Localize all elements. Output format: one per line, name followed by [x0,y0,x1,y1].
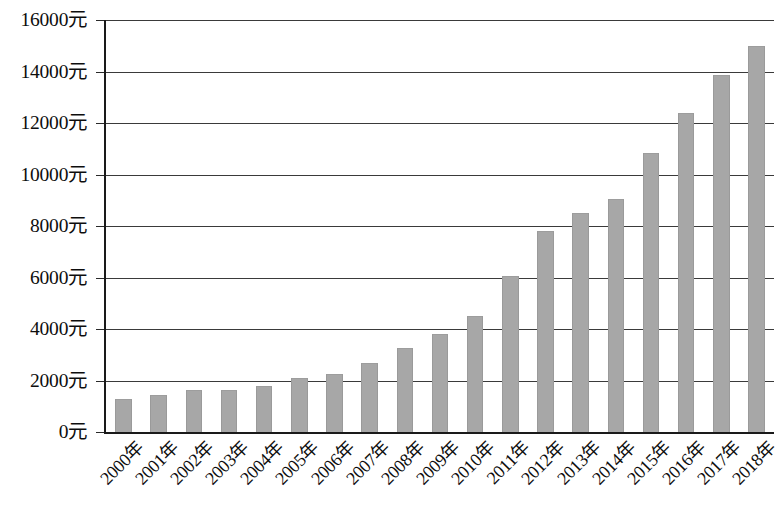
bar [678,113,695,432]
y-axis-tick-label: 2000元 [30,371,88,391]
bar [608,199,625,432]
bar [115,399,132,432]
bar [643,153,660,432]
bar [537,231,554,432]
y-axis-tick-label: 14000元 [20,62,88,82]
bar [748,46,765,432]
plot-area [106,20,774,432]
x-axis-label-group: 2000年2001年2002年2003年2004年2005年2006年2007年… [106,434,774,506]
bar [572,213,589,432]
bar-chart: 0元2000元4000元6000元8000元10000元12000元14000元… [0,0,781,506]
bar [713,75,730,432]
y-axis-tick-label: 10000元 [20,165,88,185]
y-axis-tick-label: 8000元 [30,216,88,236]
y-axis-tick-label: 12000元 [20,113,88,133]
y-axis-tick-label: 0元 [59,422,88,442]
y-axis-tick-label: 16000元 [20,10,88,30]
y-axis-tick-label: 4000元 [30,319,88,339]
y-axis-tick-label: 6000元 [30,268,88,288]
y-axis-label-group: 0元2000元4000元6000元8000元10000元12000元14000元… [0,0,96,506]
bar-series [106,20,774,432]
